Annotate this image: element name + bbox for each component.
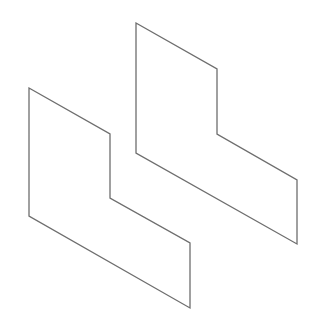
diagram-canvas xyxy=(0,0,310,325)
left-l-shape xyxy=(29,88,190,308)
right-l-shape xyxy=(136,23,297,244)
